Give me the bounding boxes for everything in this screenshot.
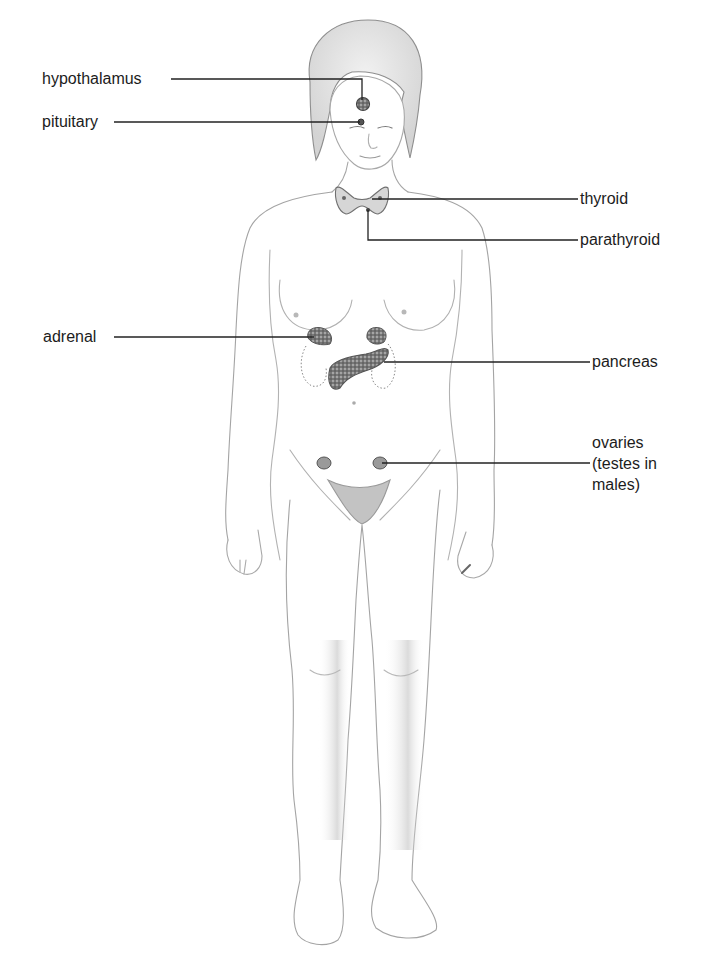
label-ovaries-line-3: males) bbox=[592, 474, 702, 495]
kidney-left-dotted bbox=[301, 346, 326, 386]
ovary-left bbox=[317, 457, 331, 469]
pancreas-gland bbox=[329, 349, 389, 389]
parathyroid-line bbox=[368, 210, 578, 240]
hypothalamus-gland bbox=[357, 98, 370, 111]
label-ovaries-line-1: ovaries bbox=[592, 432, 702, 453]
label-hypothalamus: hypothalamus bbox=[42, 69, 142, 89]
pubic-hair bbox=[328, 480, 390, 524]
thyroid-gland bbox=[335, 187, 388, 214]
label-parathyroid: parathyroid bbox=[580, 230, 660, 250]
label-pancreas: pancreas bbox=[592, 352, 658, 372]
label-ovaries: ovaries (testes in males) bbox=[592, 432, 702, 495]
adrenal-right bbox=[367, 327, 386, 344]
label-thyroid: thyroid bbox=[580, 189, 628, 209]
body-figure bbox=[226, 20, 495, 945]
label-pituitary: pituitary bbox=[42, 112, 98, 132]
adrenal-left bbox=[308, 327, 332, 344]
label-adrenal: adrenal bbox=[43, 327, 96, 347]
label-ovaries-line-2: (testes in bbox=[592, 453, 702, 474]
